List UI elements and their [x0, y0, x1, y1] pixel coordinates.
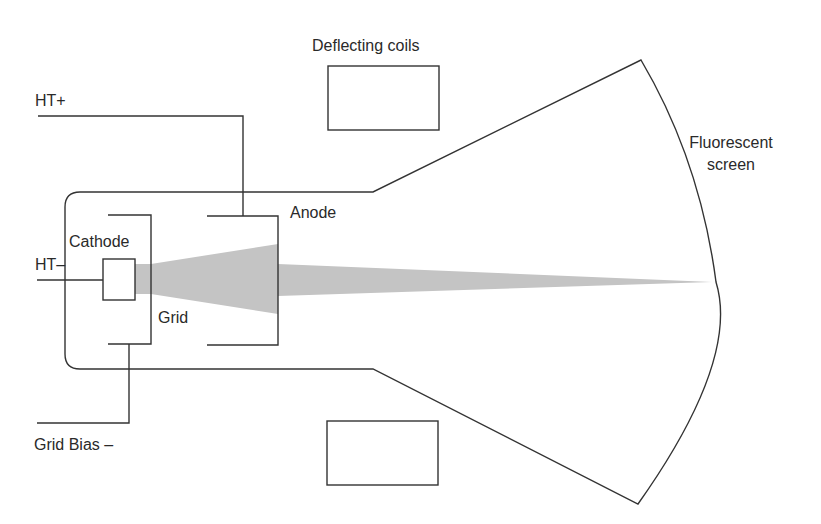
label-anode: Anode [290, 204, 336, 222]
label-fluorescent-line2: screen [686, 156, 776, 174]
label-grid: Grid [158, 309, 188, 327]
cathode-element [103, 259, 135, 300]
label-fluorescent-screen: Fluorescent screen [686, 134, 776, 174]
grid-bias-lead [37, 344, 129, 423]
label-cathode: Cathode [69, 233, 130, 251]
label-deflecting-coils: Deflecting coils [312, 37, 420, 55]
label-fluorescent-line1: Fluorescent [686, 134, 776, 152]
deflecting-coil-bottom [327, 421, 438, 485]
deflecting-coil-top [328, 66, 439, 130]
electron-beam-outer [278, 264, 712, 296]
label-ht-minus: HT– [35, 256, 65, 274]
ht-plus-lead [38, 116, 243, 216]
crt-diagram [0, 0, 821, 524]
label-grid-bias: Grid Bias – [34, 436, 113, 454]
label-ht-plus: HT+ [35, 92, 66, 110]
electron-beam-inner [135, 244, 278, 314]
